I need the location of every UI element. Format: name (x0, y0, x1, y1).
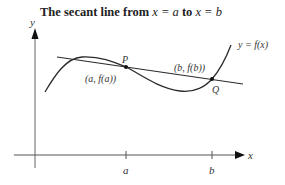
curve-label: y = f(x) (237, 39, 269, 51)
point-q-coords: (b, f(b)) (174, 62, 206, 74)
tick-label-b: b (209, 164, 215, 176)
point-p-coords: (a, f(a)) (85, 73, 117, 85)
y-axis-arrow-icon (32, 28, 39, 39)
x-axis-label: x (247, 149, 253, 161)
x-axis-arrow-icon (235, 151, 245, 159)
point-p-label: P (121, 54, 128, 65)
tick-label-a: a (123, 164, 129, 176)
point-q-marker (210, 77, 214, 81)
y-axis-label: y (29, 16, 35, 28)
point-q-label: Q (212, 84, 220, 95)
secant-line-diagram: y x a b P Q (a, f(a)) (b, f(b)) y = f(x) (0, 0, 285, 185)
point-p-marker (124, 65, 128, 69)
